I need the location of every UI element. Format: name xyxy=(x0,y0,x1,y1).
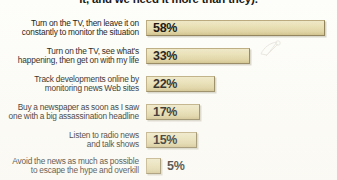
table-row: Turn on the TV, see what's happening, th… xyxy=(0,42,337,70)
table-row: Turn on the TV, then leave it on constan… xyxy=(0,14,337,42)
bar-track: 58% xyxy=(143,14,337,42)
bar-value-label: 58% xyxy=(153,20,177,36)
table-row: Buy a newspaper as soon as I saw one wit… xyxy=(0,98,337,126)
table-row: Listen to radio news and talk shows 15% xyxy=(0,126,337,154)
bar-label-line2: monitoring news Web sites xyxy=(0,84,139,93)
bar-label-line2: and talk shows xyxy=(0,140,139,149)
bar-label: Track developments online by monitoring … xyxy=(0,75,143,94)
bar-value-label: 22% xyxy=(153,76,177,92)
bar-label-line2: constantly to monitor the situation xyxy=(0,28,139,37)
bar-chart: it, and we need it more than they). Turn… xyxy=(0,0,337,180)
bar-track: 33% xyxy=(143,42,337,70)
bar-value-label: 17% xyxy=(153,104,177,120)
bar-label: Buy a newspaper as soon as I saw one wit… xyxy=(0,103,143,122)
table-row: Track developments online by monitoring … xyxy=(0,70,337,98)
bar-track: 17% xyxy=(143,98,337,126)
bar-value-label: 15% xyxy=(153,132,177,148)
bar-value-label: 33% xyxy=(153,48,177,64)
bar-track: 5% xyxy=(143,152,337,180)
chart-headline: it, and we need it more than they). xyxy=(0,0,337,5)
bar-label: Listen to radio news and talk shows xyxy=(0,131,143,150)
bar-label: Avoid the news as much as possible to es… xyxy=(0,157,143,176)
bar-label: Turn on the TV, then leave it on constan… xyxy=(0,19,143,38)
bar-track: 22% xyxy=(143,70,337,98)
bar-value-label: 5% xyxy=(167,158,184,174)
bar-label-line2: to escape the hype and overkill xyxy=(0,166,139,175)
bar-label-line2: happening, then get on with my life xyxy=(0,56,139,65)
bar-track: 15% xyxy=(143,126,337,154)
chart-headline-clip: it, and we need it more than they). xyxy=(0,0,337,8)
table-row: Avoid the news as much as possible to es… xyxy=(0,152,337,180)
bar-5 xyxy=(146,158,161,174)
bar-label: Turn on the TV, see what's happening, th… xyxy=(0,47,143,66)
bar-label-line2: one with a big assassination headline xyxy=(0,112,139,121)
